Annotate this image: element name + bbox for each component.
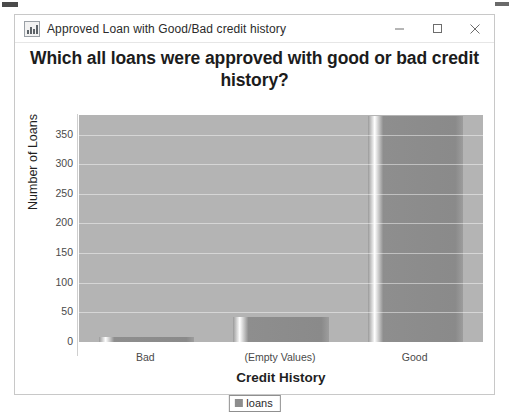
chart-app-icon — [24, 21, 40, 37]
gridline — [79, 135, 483, 136]
close-button[interactable] — [456, 15, 494, 42]
gridline — [79, 194, 483, 195]
y-tick-label: 50 — [61, 305, 73, 317]
x-tick-label: Good — [402, 351, 428, 363]
bar-series-loans — [79, 115, 483, 342]
bar-empty-values[interactable] — [233, 317, 329, 342]
gridline — [79, 283, 483, 284]
maximize-button[interactable] — [418, 15, 456, 42]
stray-mark-left — [2, 2, 18, 7]
chart-legend[interactable]: loans — [228, 395, 280, 412]
window-controls — [380, 15, 494, 42]
y-tick-label: 300 — [55, 157, 73, 169]
x-tick-label: (Empty Values) — [245, 351, 316, 363]
x-tick-label: Bad — [136, 351, 155, 363]
gridline — [79, 223, 483, 224]
legend-label-loans: loans — [246, 397, 272, 409]
minimize-button[interactable] — [380, 15, 418, 42]
minimize-icon — [394, 23, 405, 34]
stray-mark-right — [495, 2, 509, 6]
bar-bad[interactable] — [99, 337, 195, 342]
y-tick-label: 200 — [55, 216, 73, 228]
x-axis-title: Credit History — [78, 370, 484, 385]
bar-good[interactable] — [368, 116, 464, 342]
y-tick-label: 100 — [55, 276, 73, 288]
chart-canvas: Which all loans were approved with good … — [15, 43, 494, 394]
plot-area — [78, 114, 484, 343]
y-axis-title: Number of Loans — [26, 92, 40, 232]
close-icon — [469, 23, 481, 35]
y-tick-label: 150 — [55, 246, 73, 258]
legend-swatch-loans — [234, 399, 242, 407]
y-tick-label: 0 — [67, 335, 73, 347]
application-window: Approved Loan with Good/Bad credit histo… — [14, 14, 495, 395]
chart-title: Which all loans were approved with good … — [27, 47, 482, 92]
gridline — [79, 164, 483, 165]
window-title: Approved Loan with Good/Bad credit histo… — [47, 22, 286, 36]
title-bar: Approved Loan with Good/Bad credit histo… — [15, 15, 494, 43]
y-tick-label: 350 — [55, 128, 73, 140]
maximize-icon — [432, 23, 443, 34]
gridline — [79, 312, 483, 313]
y-tick-label: 250 — [55, 187, 73, 199]
gridline — [79, 253, 483, 254]
